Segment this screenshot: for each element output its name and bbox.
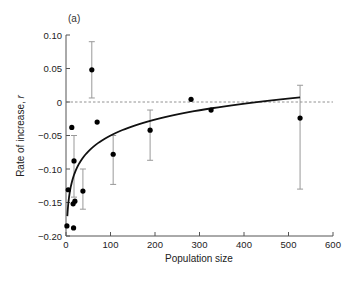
data-point: [64, 223, 69, 228]
data-point: [80, 189, 85, 194]
error-bars: [71, 42, 303, 210]
x-axis: 0100200300400500600: [63, 232, 341, 250]
y-tick-label: 0: [57, 97, 62, 108]
y-tick-label: −0.15: [38, 197, 62, 208]
data-point: [66, 187, 71, 192]
data-point: [72, 199, 77, 204]
fit-curve: [67, 97, 300, 216]
data-point: [297, 115, 302, 120]
data-point: [89, 67, 94, 72]
x-tick-label: 200: [147, 239, 163, 250]
x-tick-label: 0: [63, 239, 68, 250]
data-point: [208, 107, 213, 112]
y-tick-label: 0.10: [44, 30, 63, 41]
x-tick-label: 500: [281, 239, 297, 250]
x-tick-label: 600: [325, 239, 341, 250]
data-point: [95, 120, 100, 125]
x-axis-label: Population size: [165, 253, 233, 264]
y-axis: 0.100.050−0.05−0.10−0.15−0.20: [38, 30, 70, 242]
data-point: [188, 97, 193, 102]
data-points: [64, 67, 302, 230]
data-point: [148, 128, 153, 133]
y-tick-label: 0.05: [44, 63, 63, 74]
y-tick-label: −0.10: [38, 164, 62, 175]
y-tick-label: −0.05: [38, 130, 62, 141]
data-point: [71, 158, 76, 163]
panel-label: (a): [68, 13, 80, 24]
data-point: [69, 125, 74, 130]
y-tick-label: −0.20: [38, 231, 62, 242]
x-tick-label: 300: [192, 239, 208, 250]
y-axis-label-text: Rate of increase,: [15, 98, 26, 176]
x-tick-label: 400: [236, 239, 252, 250]
data-point: [71, 225, 76, 230]
y-axis-label: Rate of increase, r: [15, 94, 26, 176]
chart: (a) 0.100.050−0.05−0.10−0.15−0.20 010020…: [0, 0, 360, 282]
y-axis-label-var: r: [15, 94, 26, 98]
data-point: [111, 152, 116, 157]
x-tick-label: 100: [103, 239, 119, 250]
